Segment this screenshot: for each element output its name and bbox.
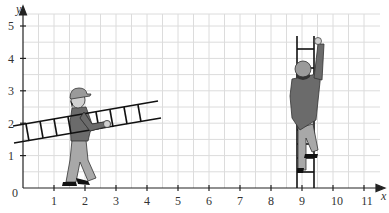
x-tick-2: 2 — [82, 194, 88, 208]
origin-label: 0 — [12, 186, 18, 200]
pants — [298, 124, 318, 170]
x-tick-labels: 1 2 3 4 5 6 7 8 9 10 11 — [51, 194, 373, 208]
y-tick-3: 3 — [8, 84, 14, 98]
x-tick-7: 7 — [237, 194, 243, 208]
y-axis-label: y — [15, 2, 22, 16]
x-tick-11: 11 — [361, 194, 373, 208]
coordinate-diagram: 1 2 3 4 5 6 7 8 9 10 11 0 1 2 3 4 5 x y — [0, 0, 389, 213]
shoe-left — [62, 182, 77, 186]
x-tick-3: 3 — [113, 194, 119, 208]
hand — [315, 38, 322, 45]
x-tick-6: 6 — [206, 194, 212, 208]
y-tick-4: 4 — [8, 52, 14, 66]
y-tick-5: 5 — [8, 19, 14, 33]
y-tick-labels: 1 2 3 4 5 — [8, 19, 14, 163]
shoe-upper — [304, 154, 318, 158]
x-tick-10: 10 — [331, 194, 343, 208]
x-tick-8: 8 — [268, 194, 274, 208]
cap — [295, 61, 311, 77]
y-tick-2: 2 — [8, 117, 14, 131]
hand-front — [104, 121, 111, 128]
y-tick-1: 1 — [8, 149, 14, 163]
x-tick-4: 4 — [144, 194, 150, 208]
x-tick-5: 5 — [175, 194, 181, 208]
shoe-lower — [297, 168, 304, 173]
x-tick-1: 1 — [51, 194, 57, 208]
man-climbing-ladder — [290, 38, 324, 174]
cap — [70, 88, 91, 99]
raised-arm — [314, 44, 324, 80]
x-tick-9: 9 — [299, 194, 305, 208]
pants — [66, 140, 96, 182]
x-axis-label: x — [380, 189, 387, 203]
